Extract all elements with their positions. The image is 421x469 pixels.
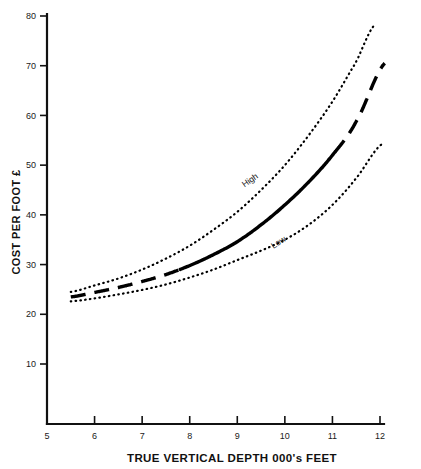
x-tick-label: 8 (187, 431, 192, 441)
y-tick-label: 30 (26, 260, 36, 270)
y-tick-label: 20 (26, 309, 36, 319)
x-tick-label: 6 (92, 431, 97, 441)
x-tick-label: 9 (235, 431, 240, 441)
y-tick-label: 80 (26, 11, 36, 21)
curve-label-high: High (240, 171, 260, 189)
x-tick-label: 12 (375, 431, 385, 441)
y-tick-label: 40 (26, 210, 36, 220)
x-tick-label: 5 (44, 431, 49, 441)
y-axis-ticks: 1020304050607080 (26, 11, 47, 369)
curve-label-low: Low (269, 233, 288, 250)
y-axis-title: COST PER FOOT £ (10, 169, 22, 274)
x-tick-label: 10 (280, 431, 290, 441)
chart-container: 1020304050607080 56789101112 HighLow TRU… (0, 0, 421, 469)
y-tick-label: 50 (26, 160, 36, 170)
series-mid-trail-dashed (335, 63, 385, 152)
series-mid-solid (180, 152, 335, 269)
x-axis-title: TRUE VERTICAL DEPTH 000's FEET (127, 452, 337, 464)
x-tick-label: 7 (140, 431, 145, 441)
y-tick-label: 70 (26, 61, 36, 71)
x-axis-ticks: 56789101112 (44, 416, 385, 441)
x-tick-label: 11 (328, 431, 337, 441)
chart-plot: 1020304050607080 56789101112 HighLow TRU… (0, 0, 421, 469)
y-tick-label: 60 (26, 111, 36, 121)
series-mid-lead-dashed (71, 269, 180, 297)
chart-series-group (71, 24, 385, 301)
y-tick-label: 10 (26, 359, 36, 369)
chart-annotations: HighLow (240, 171, 289, 251)
